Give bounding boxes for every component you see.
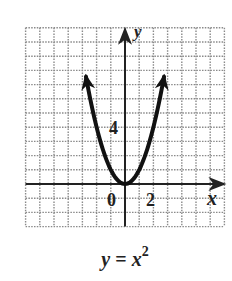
x-tick-2: 2 <box>146 190 155 210</box>
y-axis-label: y <box>132 22 142 41</box>
caption-exponent: 2 <box>142 244 149 259</box>
graph: y x 4 0 2 <box>0 0 232 281</box>
equation-caption: y = x2 <box>0 246 232 271</box>
x-tick-0: 0 <box>107 190 116 210</box>
caption-equals: = <box>115 248 126 270</box>
x-axis-label: x <box>206 187 217 209</box>
y-tick-4: 4 <box>109 118 118 138</box>
caption-base: x <box>132 248 142 270</box>
caption-lhs: y <box>101 248 110 270</box>
